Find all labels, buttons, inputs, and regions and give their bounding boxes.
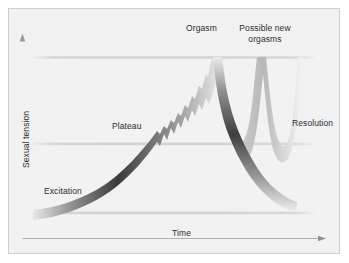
gridline-bottom (30, 212, 316, 215)
label-possible-new-orgasms: Possible new orgasms (234, 23, 296, 45)
label-plateau: Plateau (112, 121, 142, 131)
label-resolution: Resolution (292, 118, 333, 128)
label-orgasm: Orgasm (186, 23, 217, 33)
up-arrow-icon (20, 34, 26, 42)
label-excitation: Excitation (44, 186, 82, 196)
right-arrow-icon (318, 236, 326, 242)
plot-canvas (0, 0, 349, 263)
x-axis-title: Time (172, 228, 191, 238)
sexual-response-cycle-figure: Sexual tension Orgasm Possible new orgas… (0, 0, 349, 263)
gridline-top (30, 56, 316, 59)
y-axis-title: Sexual tension (21, 111, 31, 168)
